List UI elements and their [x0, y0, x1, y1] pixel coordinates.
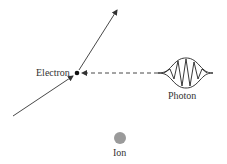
- ion-circle: [114, 132, 126, 144]
- ion-label: Ion: [113, 147, 126, 158]
- electron-dot: [75, 71, 80, 76]
- incoming-electron-arrow: [13, 76, 73, 116]
- electron-label: Electron: [36, 67, 70, 78]
- photon-label: Photon: [168, 90, 196, 101]
- outgoing-electron-arrow: [79, 10, 117, 70]
- photon-wave-packet-icon: [158, 58, 213, 88]
- photoionization-diagram: Electron Photon Ion: [0, 0, 227, 164]
